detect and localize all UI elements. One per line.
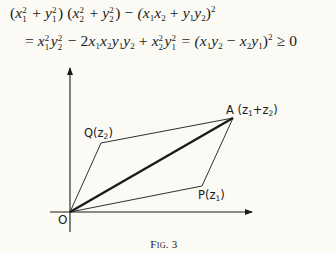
point-letter: A [226,103,234,117]
segment-op [70,186,202,212]
point-letter: P [198,188,205,202]
label-point-a: A (z1+z2) [226,103,278,118]
label-point-q: Q(z2) [84,126,113,141]
figure-caption: Fig. 3 [0,238,336,250]
point-letter: Q [84,126,93,140]
label-text: ) [273,103,278,117]
label-text: (z [93,126,104,140]
segment-oq [70,143,101,212]
origin-letter: O [58,213,67,227]
label-text: ) [220,188,225,202]
parallelogram-figure [0,0,336,253]
label-text: (z [205,188,216,202]
caption-text: Fig. 3 [150,238,177,250]
label-text: ) [108,126,113,140]
label-text: +z [253,103,269,117]
label-text: (z [234,103,248,117]
label-origin: O [58,213,67,227]
label-point-p: P(z1) [198,188,225,203]
